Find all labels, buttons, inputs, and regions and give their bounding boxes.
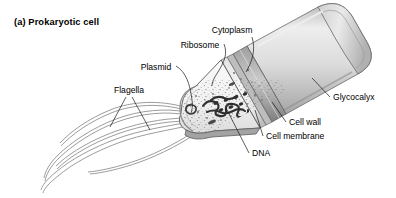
flagella-group [41, 102, 200, 193]
label-plasmid: Plasmid [141, 62, 172, 72]
label-glycocalyx: Glycocalyx [333, 92, 375, 102]
figure-title: (a) Prokaryotic cell [14, 17, 99, 27]
label-flagella: Flagella [114, 85, 144, 95]
label-cell-wall: Cell wall [289, 117, 321, 127]
label-cell-membrane: Cell membrane [266, 131, 324, 141]
label-cytoplasm: Cytoplasm [212, 25, 253, 35]
label-dna: DNA [252, 148, 270, 158]
label-ribosome: Ribosome [181, 40, 220, 50]
figure-canvas: (a) Prokaryotic cell Cytoplasm Ribosome … [0, 0, 396, 198]
